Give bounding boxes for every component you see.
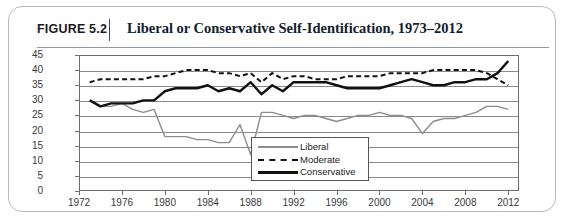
- y-tick-label: 0: [3, 185, 43, 196]
- y-tick-label: 25: [3, 109, 43, 120]
- x-tick-mark: [208, 191, 209, 195]
- x-tick-label: 1972: [59, 197, 99, 208]
- conservative-line-icon: [256, 166, 300, 178]
- y-tick-label: 35: [3, 79, 43, 90]
- x-tick-mark: [337, 191, 338, 195]
- x-tick-label: 2004: [402, 197, 442, 208]
- chart-plot-area: Liberal Moderate Conservative 0510152025…: [9, 49, 557, 209]
- x-tick-mark: [422, 191, 423, 195]
- y-tick-mark: [75, 176, 79, 177]
- x-tick-label: 2000: [359, 197, 399, 208]
- y-tick-label: 45: [3, 49, 43, 60]
- x-tick-mark: [379, 191, 380, 195]
- y-tick-mark: [75, 161, 79, 162]
- header-rule: [37, 47, 549, 48]
- legend-label-moderate: Moderate: [300, 154, 340, 166]
- y-tick-mark: [75, 55, 79, 56]
- y-tick-mark: [75, 146, 79, 147]
- y-tick-label: 20: [3, 125, 43, 136]
- figure-card: FIGURE 5.2 Liberal or Conservative Self-…: [8, 6, 556, 212]
- legend-label-liberal: Liberal: [300, 141, 329, 153]
- y-tick-label: 10: [3, 155, 43, 166]
- legend-item-liberal: Liberal: [256, 141, 364, 154]
- legend-label-conservative: Conservative: [300, 166, 355, 178]
- legend-item-conservative: Conservative: [256, 166, 364, 179]
- liberal-line-icon: [256, 141, 300, 153]
- x-tick-mark: [294, 191, 295, 195]
- legend-item-moderate: Moderate: [256, 154, 364, 167]
- x-tick-mark: [508, 191, 509, 195]
- figure-header: FIGURE 5.2 Liberal or Conservative Self-…: [23, 19, 543, 49]
- x-tick-mark: [465, 191, 466, 195]
- moderate-line-icon: [256, 154, 300, 166]
- x-tick-mark: [122, 191, 123, 195]
- y-tick-label: 15: [3, 140, 43, 151]
- y-tick-mark: [75, 131, 79, 132]
- y-tick-mark: [75, 85, 79, 86]
- x-tick-label: 1992: [274, 197, 314, 208]
- x-tick-label: 2012: [488, 197, 528, 208]
- x-tick-label: 1988: [231, 197, 271, 208]
- series-line-conservative: [90, 61, 509, 106]
- y-tick-label: 5: [3, 170, 43, 181]
- x-tick-mark: [251, 191, 252, 195]
- x-tick-label: 1984: [188, 197, 228, 208]
- y-tick-mark: [75, 100, 79, 101]
- y-tick-mark: [75, 115, 79, 116]
- x-tick-label: 2008: [445, 197, 485, 208]
- x-tick-mark: [79, 191, 80, 195]
- x-tick-label: 1976: [102, 197, 142, 208]
- x-tick-mark: [165, 191, 166, 195]
- figure-number: FIGURE 5.2: [37, 22, 107, 36]
- y-tick-mark: [75, 70, 79, 71]
- y-tick-label: 40: [3, 64, 43, 75]
- x-tick-label: 1996: [317, 197, 357, 208]
- x-tick-label: 1980: [145, 197, 185, 208]
- header-divider: [109, 19, 110, 41]
- y-tick-label: 30: [3, 94, 43, 105]
- chart-legend: Liberal Moderate Conservative: [251, 137, 369, 181]
- figure-title: Liberal or Conservative Self-Identificat…: [127, 20, 463, 37]
